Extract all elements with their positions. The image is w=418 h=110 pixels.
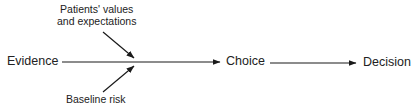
baseline-influence-arrow [103,66,134,92]
evidence-node-label: Evidence [7,55,58,68]
evidence-to-decision-diagram: Evidence Choice Decision Patients' value… [0,0,418,110]
patients-values-label: Patients' values and expectations [57,4,136,27]
values-influence-arrow [103,32,134,58]
decision-node-label: Decision [363,56,411,69]
patients-values-line2: and expectations [57,16,136,28]
choice-node-label: Choice [226,55,265,68]
baseline-risk-label: Baseline risk [66,94,126,106]
patients-values-line1: Patients' values [57,4,136,16]
